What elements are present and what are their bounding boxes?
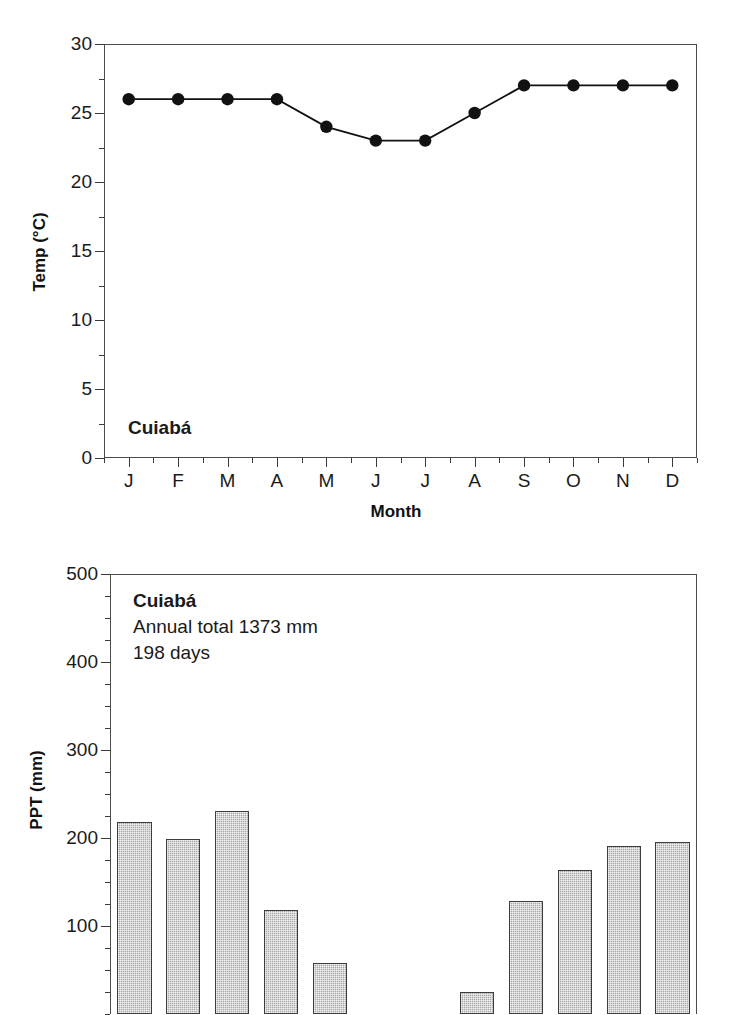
temperature-x-tick-label: N xyxy=(608,471,638,490)
precipitation-y-tick xyxy=(105,794,110,795)
precipitation-bar xyxy=(313,963,347,1014)
temperature-y-tick-label: 5 xyxy=(40,379,92,398)
temperature-x-tick-minor xyxy=(697,458,698,463)
precipitation-y-tick xyxy=(105,618,110,619)
precipitation-chart-panel: PPT (mm) Cuiabá Annual total 1373 mm 198… xyxy=(0,520,732,977)
temperature-x-tick xyxy=(376,458,377,467)
temperature-data-point xyxy=(221,93,233,105)
temperature-y-tick xyxy=(95,113,104,114)
temperature-y-tick-label: 10 xyxy=(40,310,92,329)
precipitation-y-tick xyxy=(105,706,110,707)
temperature-x-tick xyxy=(672,458,673,467)
temperature-data-point xyxy=(468,107,480,119)
precipitation-bar xyxy=(509,901,543,1014)
temperature-x-tick-minor xyxy=(401,458,402,463)
temperature-data-point xyxy=(172,93,184,105)
temperature-line-series xyxy=(104,44,697,458)
temperature-y-tick xyxy=(95,44,104,45)
temperature-x-tick xyxy=(326,458,327,467)
temperature-x-tick-label: M xyxy=(311,471,341,490)
temperature-x-tick-minor xyxy=(549,458,550,463)
precipitation-y-tick-label: 200 xyxy=(30,828,98,847)
temperature-y-tick xyxy=(95,182,104,183)
temperature-x-tick-minor xyxy=(598,458,599,463)
temperature-x-tick-label: J xyxy=(114,471,144,490)
precipitation-rain-days-label: 198 days xyxy=(133,640,210,665)
precipitation-bar xyxy=(117,822,151,1014)
precipitation-bar xyxy=(558,870,592,1014)
temperature-x-tick-label: J xyxy=(410,471,440,490)
temperature-x-tick xyxy=(277,458,278,467)
precipitation-y-tick xyxy=(105,816,110,817)
precipitation-y-tick-label: 500 xyxy=(30,564,98,583)
temperature-x-tick xyxy=(524,458,525,467)
temperature-x-tick xyxy=(425,458,426,467)
temperature-x-tick-label: D xyxy=(657,471,687,490)
temperature-x-tick-minor xyxy=(351,458,352,463)
precipitation-y-tick xyxy=(105,970,110,971)
precipitation-y-tick xyxy=(101,926,110,927)
precipitation-y-tick xyxy=(105,904,110,905)
precipitation-y-tick xyxy=(105,992,110,993)
precipitation-bar xyxy=(264,910,298,1014)
precipitation-y-tick xyxy=(101,750,110,751)
temperature-x-tick-label: S xyxy=(509,471,539,490)
temperature-x-tick-label: J xyxy=(361,471,391,490)
temperature-y-tick-label: 25 xyxy=(40,103,92,122)
temperature-x-tick xyxy=(573,458,574,467)
temperature-y-tick-label: 30 xyxy=(40,34,92,53)
temperature-y-tick-label: 20 xyxy=(40,172,92,191)
precipitation-y-tick xyxy=(105,640,110,641)
temperature-x-axis-title: Month xyxy=(371,502,422,522)
temperature-x-tick-minor xyxy=(499,458,500,463)
precipitation-y-tick-label: 400 xyxy=(30,652,98,671)
precipitation-bar xyxy=(215,811,249,1014)
precipitation-bar xyxy=(166,839,200,1014)
temperature-data-point xyxy=(320,121,332,133)
temperature-data-point xyxy=(123,93,135,105)
precipitation-bar xyxy=(607,846,641,1014)
temperature-x-tick-minor xyxy=(450,458,451,463)
temperature-y-tick-label: 0 xyxy=(40,448,92,467)
precipitation-y-tick-label: 100 xyxy=(30,916,98,935)
temperature-line xyxy=(129,85,673,140)
temperature-data-point xyxy=(567,79,579,91)
temperature-x-tick-minor xyxy=(104,458,105,463)
temperature-chart-panel: Temp (°C) Month Cuiabá 051015202530 JFMA… xyxy=(0,0,732,520)
temperature-x-tick-minor xyxy=(153,458,154,463)
precipitation-bar xyxy=(655,842,689,1014)
temperature-x-tick xyxy=(228,458,229,467)
temperature-x-tick-minor xyxy=(648,458,649,463)
temperature-x-tick xyxy=(623,458,624,467)
temperature-x-tick-label: M xyxy=(213,471,243,490)
temperature-x-tick-label: A xyxy=(262,471,292,490)
temperature-x-tick-minor xyxy=(252,458,253,463)
precipitation-station-label: Cuiabá xyxy=(133,588,196,613)
precipitation-bar xyxy=(460,992,494,1014)
precipitation-y-tick xyxy=(105,728,110,729)
temperature-data-point xyxy=(666,79,678,91)
temperature-data-point xyxy=(419,134,431,146)
precipitation-y-tick xyxy=(105,772,110,773)
temperature-x-tick-minor xyxy=(203,458,204,463)
temperature-y-tick xyxy=(95,320,104,321)
temperature-data-point xyxy=(617,79,629,91)
precipitation-y-tick xyxy=(101,662,110,663)
temperature-data-point xyxy=(370,134,382,146)
temperature-y-tick-label: 15 xyxy=(40,241,92,260)
temperature-y-tick xyxy=(95,251,104,252)
precipitation-y-tick xyxy=(105,596,110,597)
temperature-x-tick xyxy=(129,458,130,467)
precipitation-y-tick xyxy=(105,860,110,861)
temperature-x-tick-label: F xyxy=(163,471,193,490)
precipitation-y-tick xyxy=(105,882,110,883)
temperature-data-point xyxy=(518,79,530,91)
temperature-y-tick xyxy=(95,389,104,390)
precipitation-y-tick xyxy=(101,838,110,839)
temperature-x-tick xyxy=(178,458,179,467)
precipitation-y-tick xyxy=(105,684,110,685)
temperature-x-tick-label: A xyxy=(460,471,490,490)
precipitation-y-tick-label: 300 xyxy=(30,740,98,759)
temperature-x-tick xyxy=(475,458,476,467)
precipitation-annual-total-label: Annual total 1373 mm xyxy=(133,614,318,639)
